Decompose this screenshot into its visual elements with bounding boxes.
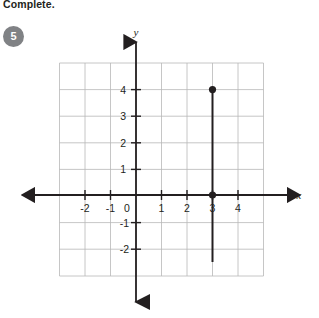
- x-tick-label: 4: [235, 202, 241, 214]
- graph-svg: -2 -1 0 1 2 3 4 4 3 2 1 -1 -2 x y: [0, 0, 319, 318]
- plotted-point: [209, 86, 216, 93]
- y-axis-label: y: [133, 26, 139, 38]
- y-tick-label: 1: [120, 163, 126, 175]
- x-tick-label: -2: [80, 202, 89, 214]
- y-tick-label: -1: [120, 217, 129, 229]
- coordinate-graph: -2 -1 0 1 2 3 4 4 3 2 1 -1 -2 x y: [0, 0, 319, 318]
- grid-lines: [60, 63, 264, 276]
- plotted-point: [209, 191, 216, 198]
- x-tick-label: 2: [184, 202, 190, 214]
- origin-label: 0: [124, 202, 130, 214]
- x-tick-label: -1: [106, 202, 115, 214]
- x-axis-label: x: [296, 189, 302, 201]
- y-tick-label: 4: [120, 84, 126, 96]
- y-tick-label: 2: [120, 137, 126, 149]
- x-tick-label: 1: [159, 202, 165, 214]
- y-tick-label: -2: [120, 243, 129, 255]
- y-tick-label: 3: [120, 110, 126, 122]
